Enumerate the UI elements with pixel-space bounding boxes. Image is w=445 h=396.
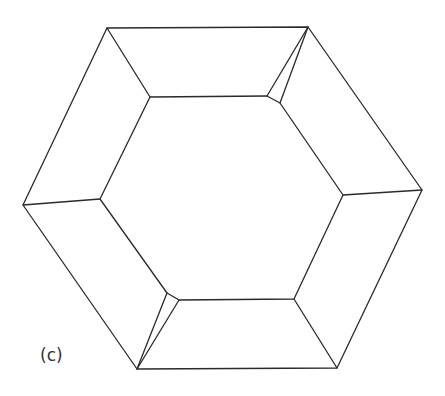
bevel-edge — [107, 28, 150, 97]
hexagon-frame-diagram — [0, 0, 445, 396]
bevel-edge — [23, 199, 100, 205]
figure-label: (c) — [40, 345, 63, 365]
bevel-edge — [280, 27, 308, 103]
inner-hexagon — [100, 96, 343, 300]
bevel-edge — [137, 293, 167, 369]
bevel-edge — [137, 300, 179, 369]
outer-hexagon — [23, 27, 422, 369]
bevel-edge — [267, 27, 308, 96]
bevel-edge — [294, 299, 337, 368]
bevel-edge — [343, 190, 422, 195]
